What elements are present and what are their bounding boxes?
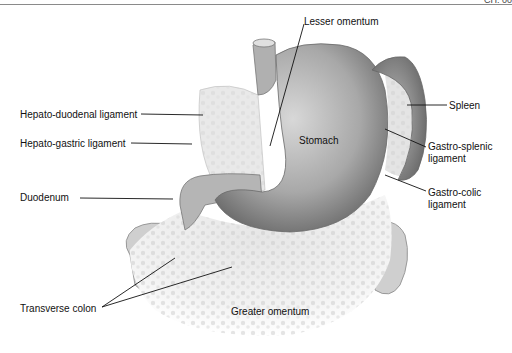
label-duodenum: Duodenum <box>20 192 69 203</box>
label-gastro-colic-ligament-line2: ligament <box>428 199 466 210</box>
label-hepato-duodenal-ligament: Hepato-duodenal ligament <box>20 109 137 120</box>
label-stomach: Stomach <box>299 135 338 146</box>
label-lesser-omentum: Lesser omentum <box>304 16 378 27</box>
label-greater-omentum: Greater omentum <box>231 306 309 317</box>
label-gastro-colic-ligament-line1: Gastro-colic <box>428 187 481 198</box>
label-transverse-colon: Transverse colon <box>20 303 96 314</box>
label-gastro-splenic-ligament-line2: ligament <box>428 153 466 164</box>
label-gastro-splenic-ligament-line1: Gastro-splenic <box>428 141 492 152</box>
stomach-illustration <box>0 0 512 353</box>
label-spleen: Spleen <box>449 100 480 111</box>
label-hepato-gastric-ligament: Hepato-gastric ligament <box>20 138 126 149</box>
esophagus-shape <box>253 41 276 95</box>
